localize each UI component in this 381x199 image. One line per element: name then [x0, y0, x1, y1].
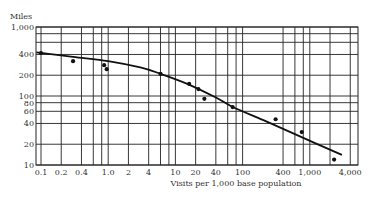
y-axis-label: Miles: [10, 12, 32, 21]
x-tick-labels: 0.10.20.41.0241020401004001,0004,000: [35, 168, 362, 177]
x-tick-label: 0.1: [35, 168, 48, 177]
x-tick-label: 20: [191, 168, 201, 177]
fitted-curve: [36, 52, 342, 155]
x-tick-label: 100: [235, 168, 250, 177]
y-tick-labels: 10204060801002004001,000: [11, 23, 34, 170]
data-point: [71, 59, 75, 63]
data-point: [39, 51, 43, 55]
data-point: [105, 67, 109, 71]
y-tick-label: 100: [19, 92, 34, 101]
y-tick-label: 20: [24, 140, 34, 149]
y-tick-label: 10: [24, 161, 34, 170]
y-tick-label: 400: [19, 50, 34, 59]
y-tick-label: 1,000: [11, 23, 34, 32]
x-tick-label: 40: [211, 168, 221, 177]
x-tick-label: 4: [146, 168, 151, 177]
x-tick-label: 4,000: [339, 168, 362, 177]
x-tick-label: 0.4: [75, 168, 88, 177]
chart: 10204060801002004001,000 0.10.20.41.0241…: [0, 0, 381, 199]
y-tick-label: 60: [24, 107, 34, 116]
data-point: [332, 157, 336, 161]
data-point: [300, 130, 304, 134]
data-point: [102, 63, 106, 67]
data-point: [187, 82, 191, 86]
data-point: [231, 105, 235, 109]
x-tick-label: 2: [126, 168, 131, 177]
data-points: [39, 51, 336, 162]
data-point: [196, 87, 200, 91]
y-tick-label: 200: [19, 71, 34, 80]
y-tick-label: 40: [24, 119, 34, 128]
x-tick-label: 1.0: [102, 168, 115, 177]
x-tick-label: 1,000: [298, 168, 321, 177]
x-tick-label: 400: [275, 168, 290, 177]
data-point: [202, 97, 206, 101]
data-point: [274, 117, 278, 121]
x-axis-label: Visits per 1,000 base population: [170, 179, 302, 188]
x-tick-label: 0.2: [55, 168, 68, 177]
x-tick-label: 10: [170, 168, 180, 177]
data-point: [158, 72, 162, 76]
